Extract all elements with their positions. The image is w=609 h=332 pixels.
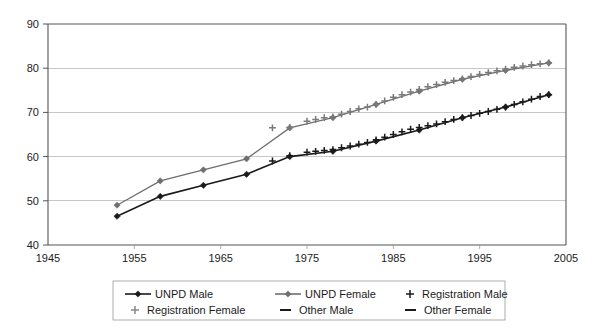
data-point-marker [114,213,120,219]
x-tick-labels: 1945195519651975198519952005 [36,252,578,264]
y-tick-label: 90 [27,18,39,30]
legend-item-label: UNPD Female [305,288,376,300]
data-point-marker [537,60,544,67]
data-point-marker [494,106,501,113]
data-point-marker [511,101,518,108]
x-tick-label: 2005 [554,252,578,264]
legend-item-label: UNPD Male [155,288,213,300]
series-line [117,95,549,217]
data-point-marker [330,113,337,120]
line-chart: 405060708090 194519551965197519851995200… [0,0,609,332]
y-tick-label: 40 [27,239,39,251]
x-tick-label: 1975 [295,252,319,264]
legend-item-registration-male[interactable]: Registration Male [406,288,508,300]
data-point-marker [381,98,388,105]
data-point-marker [114,202,120,208]
data-point-marker [528,61,535,68]
legend-item-label: Registration Female [147,304,245,316]
data-point-marker [347,108,354,115]
y-tick-label: 80 [27,62,39,74]
series-unpd-female [114,60,552,209]
data-point-marker [537,93,544,100]
chart-legend: UNPD MaleUNPD FemaleRegistration MaleReg… [113,281,508,320]
data-point-marker [468,112,475,119]
data-point-marker [450,116,457,123]
data-point-marker [243,171,249,177]
data-point-marker [157,178,163,184]
data-point-marker [373,101,380,108]
data-series-layer [114,59,552,219]
x-tick-label: 1995 [467,252,491,264]
data-point-marker [545,91,552,98]
data-point-marker [200,182,206,188]
data-point-marker [519,98,526,105]
x-tick-label: 1965 [208,252,232,264]
y-tick-label: 50 [27,195,39,207]
data-point-marker [200,167,206,173]
data-point-marker [545,59,552,66]
data-point-marker [157,193,163,199]
series-line [117,63,549,205]
data-point-marker [269,124,276,131]
data-point-marker [468,73,475,80]
data-point-marker [502,104,509,111]
legend-item-label: Other Female [424,304,491,316]
legend-item-label: Registration Male [422,288,508,300]
data-point-marker [485,108,492,115]
chart-container: 405060708090 194519551965197519851995200… [0,0,609,332]
x-tick-label: 1985 [381,252,405,264]
data-point-marker [459,114,466,121]
x-tick-label: 1945 [36,252,60,264]
data-point-marker [355,141,362,148]
legend-item-registration-female[interactable]: Registration Female [131,304,245,316]
data-point-marker [528,96,535,103]
y-tick-label: 70 [27,106,39,118]
data-point-marker [364,139,371,146]
gridlines [48,68,566,201]
data-point-marker [338,111,345,118]
data-point-marker [476,110,483,117]
y-tick-marks [43,24,48,245]
y-tick-label: 60 [27,151,39,163]
legend-item-label: Other Male [299,304,353,316]
y-tick-labels: 405060708090 [27,18,39,251]
data-point-marker [355,105,362,112]
x-tick-marks [134,245,479,249]
x-tick-label: 1955 [122,252,146,264]
data-point-marker [364,104,371,111]
data-point-marker [459,75,466,82]
